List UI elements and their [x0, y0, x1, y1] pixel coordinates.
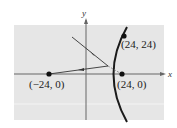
- point-24-0: [119, 71, 124, 76]
- label-24-24: (24, 24): [121, 38, 156, 51]
- diagram-canvas: x y (24, 24) (−24, 0) (24, 0): [0, 0, 177, 128]
- y-axis-arrow-icon: [84, 18, 88, 24]
- hyperbola-diagram: x y (24, 24) (−24, 0) (24, 0): [0, 0, 177, 128]
- label-24-0: (24, 0): [117, 78, 147, 91]
- x-axis-label: x: [167, 69, 172, 79]
- y-axis-label: y: [81, 8, 86, 18]
- point-neg24-0: [46, 71, 51, 76]
- label-neg24-0: (−24, 0): [29, 78, 65, 91]
